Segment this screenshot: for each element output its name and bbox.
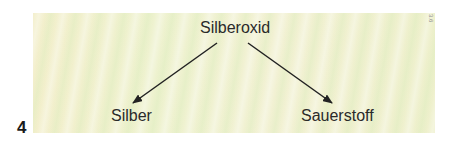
figure-number: 4 [17, 118, 26, 138]
node-silber: Silber [111, 107, 152, 125]
side-code: 3.6 [428, 14, 434, 22]
node-sauerstoff: Sauerstoff [301, 107, 374, 125]
arrow-to-sauerstoff [248, 43, 332, 103]
node-silberoxid: Silberoxid [200, 19, 270, 37]
arrow-to-silber [133, 43, 217, 103]
